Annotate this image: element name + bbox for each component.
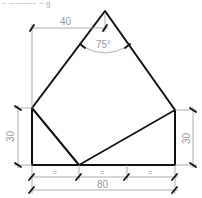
- dim-label-40: 40: [60, 16, 72, 27]
- dim-label-left-30: 30: [5, 130, 16, 142]
- dim-label-75deg: 75°: [96, 39, 111, 50]
- dim-label-seg-3: =: [148, 169, 152, 176]
- inner-line-right: [79, 110, 175, 165]
- dimension-right-30: 30: [175, 107, 197, 168]
- dimension-left-30: 30: [5, 105, 32, 168]
- object-outline: [32, 11, 175, 165]
- dim-label-seg-1: =: [53, 169, 57, 176]
- dim-label-80: 80: [97, 179, 109, 190]
- outer-profile: [32, 11, 175, 165]
- technical-drawing: ~ ~~~~~~ ~ g 40 75° 30: [0, 0, 202, 198]
- dim-label-right-30: 30: [181, 132, 192, 144]
- cropped-header-text: ~ ~~~~~~ ~ g: [2, 0, 51, 8]
- dimension-bottom-80: 80: [29, 179, 178, 193]
- inner-line-left: [32, 108, 79, 165]
- dim-label-seg-2: =: [100, 169, 104, 176]
- dimension-angle-75: 75°: [80, 39, 130, 53]
